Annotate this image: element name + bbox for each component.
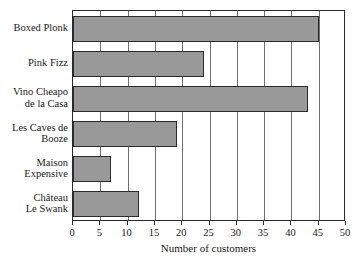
bar	[73, 16, 319, 42]
y-axis-category-labels: Boxed PlonkPink FizzVino Cheapo de la Ca…	[0, 10, 68, 221]
tick-label: 15	[149, 226, 160, 239]
tick-mark	[181, 221, 182, 225]
tick-label: 50	[340, 226, 351, 239]
x-axis-title: Number of customers	[72, 241, 345, 255]
bar-chart: Boxed PlonkPink FizzVino Cheapo de la Ca…	[0, 0, 355, 265]
tick-mark	[127, 221, 128, 225]
bar	[73, 121, 177, 147]
tick-mark	[154, 221, 155, 225]
tick-mark	[263, 221, 264, 225]
tick-label: 5	[97, 226, 102, 239]
plot-area	[72, 10, 345, 221]
category-label: Les Caves de Booze	[0, 122, 68, 145]
tick-mark	[318, 221, 319, 225]
tick-label: 20	[176, 226, 187, 239]
tick-label: 45	[312, 226, 323, 239]
bar	[73, 51, 204, 77]
bar	[73, 86, 308, 112]
tick-label: 30	[231, 226, 242, 239]
category-label: Maison Expensive	[0, 157, 68, 180]
tick-label: 25	[203, 226, 214, 239]
category-label: Boxed Plonk	[0, 22, 68, 34]
tick-label: 0	[69, 226, 74, 239]
bar	[73, 191, 139, 217]
x-axis-tick-labels: 05101520253035404550	[72, 226, 345, 240]
bars-layer	[73, 11, 344, 220]
tick-mark	[290, 221, 291, 225]
tick-mark	[99, 221, 100, 225]
tick-label: 10	[121, 226, 132, 239]
tick-mark	[72, 221, 73, 225]
category-label: Vino Cheapo de la Casa	[0, 86, 68, 109]
tick-mark	[209, 221, 210, 225]
category-label: Pink Fizz	[0, 57, 68, 69]
tick-label: 35	[258, 226, 269, 239]
bar	[73, 156, 111, 182]
category-label: Château Le Swank	[0, 192, 68, 215]
tick-label: 40	[285, 226, 296, 239]
tick-mark	[236, 221, 237, 225]
tick-mark	[345, 221, 346, 225]
